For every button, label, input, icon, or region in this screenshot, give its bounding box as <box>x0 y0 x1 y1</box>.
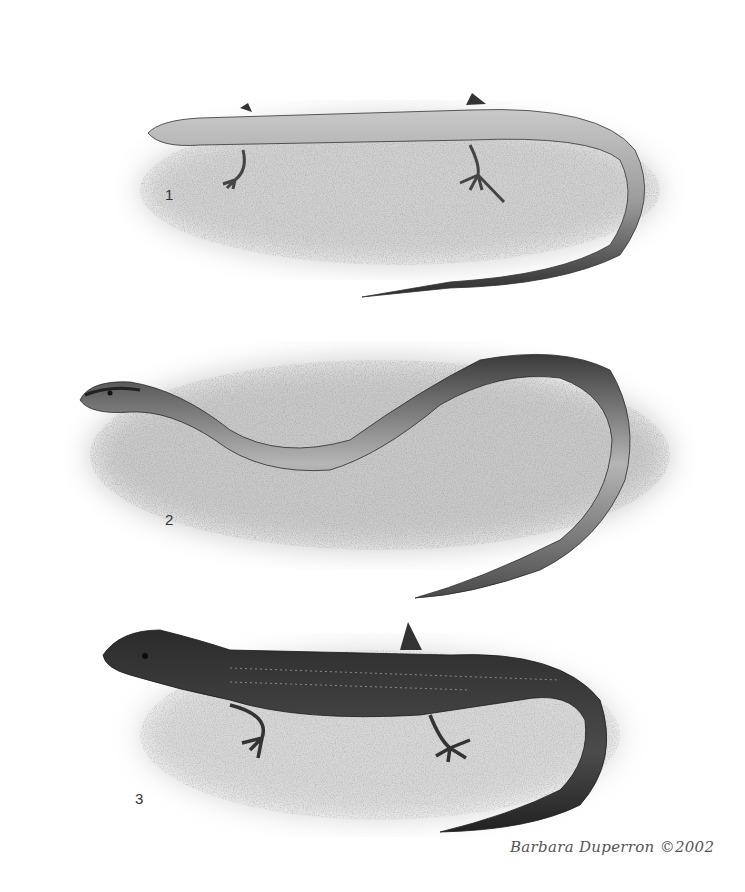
lizard-plate-illustration <box>0 0 745 892</box>
artist-signature: Barbara Duperron ©2002 <box>510 838 714 856</box>
figure-label-1: 1 <box>165 187 173 202</box>
figure-label-3: 3 <box>135 791 143 806</box>
figure-label-2: 2 <box>165 512 173 527</box>
